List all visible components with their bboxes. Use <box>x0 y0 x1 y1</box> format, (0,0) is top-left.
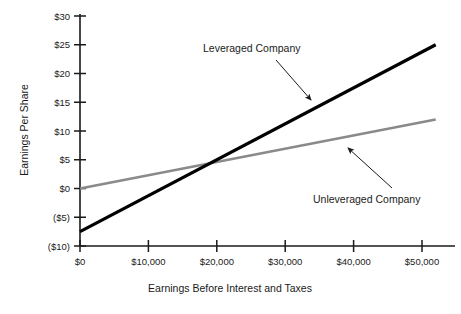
y-tick-label: ($10) <box>48 241 70 252</box>
y-tick-label: $30 <box>54 11 70 22</box>
x-tick-label: $40,000 <box>336 256 370 267</box>
y-tick-label: $10 <box>54 126 70 137</box>
x-tick-label: $10,000 <box>131 256 165 267</box>
x-axis-tick-labels: $0 $10,000 $20,000 $30,000 $40,000 $50,0… <box>75 256 439 267</box>
chart-canvas: $30 $25 $20 $15 $10 $5 $0 ($5) ($10) $0 … <box>0 0 461 314</box>
y-tick-label: $15 <box>54 97 70 108</box>
y-tick-label: $0 <box>59 183 70 194</box>
chart-container: $30 $25 $20 $15 $10 $5 $0 ($5) ($10) $0 … <box>0 0 461 314</box>
x-tick-label: $30,000 <box>268 256 302 267</box>
y-axis-title: Earnings Per Share <box>18 84 30 176</box>
x-tick-label: $0 <box>75 256 86 267</box>
x-axis-title: Earnings Before Interest and Taxes <box>148 282 312 294</box>
y-tick-label: $5 <box>59 154 70 165</box>
x-tick-label: $50,000 <box>405 256 439 267</box>
y-tick-label: $25 <box>54 39 70 50</box>
y-tick-label: $20 <box>54 68 70 79</box>
y-axis-tick-labels: $30 $25 $20 $15 $10 $5 $0 ($5) ($10) <box>48 11 70 252</box>
annotation-label-leveraged: Leveraged Company <box>203 42 301 54</box>
x-tick-label: $20,000 <box>200 256 234 267</box>
annotation-label-unleveraged: Unleveraged Company <box>313 193 421 205</box>
y-tick-label: ($5) <box>53 212 70 223</box>
